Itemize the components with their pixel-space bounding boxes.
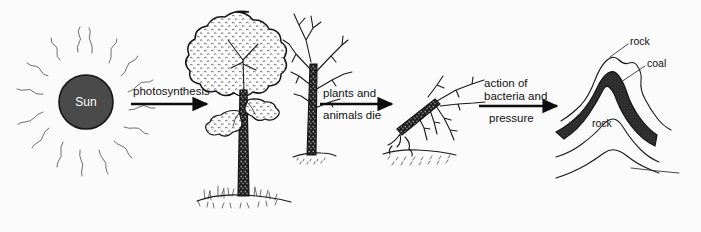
coal-formation-diagram: Sun photosynthesis	[0, 0, 701, 232]
arrow-bacteria-label-line3: pressure	[489, 112, 534, 124]
sun-label: Sun	[75, 95, 96, 109]
arrow-bacteria-label-line1: action of	[484, 77, 528, 89]
arrow-bacteria-label-line2: bacteria and	[484, 90, 547, 102]
strata-label-rock-top: rock	[630, 35, 651, 47]
arrow-photosynthesis-label-line1: photosynthesis	[133, 85, 210, 97]
arrow-plants-die-label-line1: plants and	[323, 87, 376, 99]
strata-label-coal: coal	[647, 57, 666, 69]
arrow-plants-die-label-line2: animals die	[323, 109, 381, 121]
strata-label-rock-lower: rock	[592, 117, 613, 129]
